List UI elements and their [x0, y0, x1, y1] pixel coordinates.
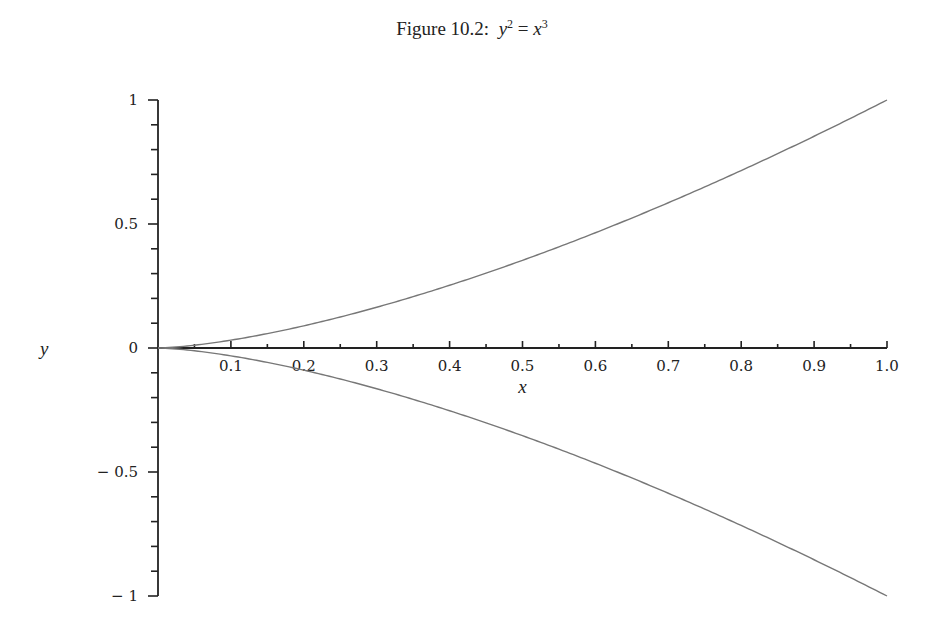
y-tick-label: − 1	[111, 587, 138, 605]
y-tick-label: − 0.5	[97, 463, 138, 481]
plot-area: 10.50− 0.5− 10.10.20.30.40.50.60.70.80.9…	[0, 0, 944, 639]
x-tick-label: 0.4	[438, 357, 462, 375]
y-tick-label: 0.5	[114, 215, 138, 233]
x-axis-label: x	[517, 376, 527, 397]
x-tick-label: 0.3	[365, 357, 389, 375]
x-tick-label: 0.7	[656, 357, 680, 375]
x-tick-label: 0.9	[802, 357, 826, 375]
x-tick-label: 0.8	[729, 357, 753, 375]
x-tick-label: 0.6	[583, 357, 607, 375]
x-tick-label: 0.1	[219, 357, 243, 375]
x-tick-label: 1.0	[875, 357, 899, 375]
curve-series-1	[158, 100, 887, 348]
y-tick-label: 1	[128, 91, 138, 109]
x-tick-label: 0.5	[511, 357, 535, 375]
y-tick-label: 0	[128, 339, 138, 357]
y-axis-label: y	[38, 338, 49, 359]
